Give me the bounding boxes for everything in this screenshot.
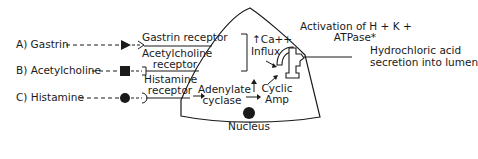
nucleus-dot — [243, 107, 255, 119]
cyclase-label: cyclase — [198, 95, 246, 106]
histamine-receptor-label-2: receptor — [144, 85, 196, 96]
output-label-1: Hydrochloric acid — [370, 45, 461, 56]
influx-label: Influx — [251, 46, 280, 57]
stimulus-histamine-label: C) Histamine — [16, 92, 84, 103]
acetylcholine-square-icon — [120, 66, 130, 76]
nucleus-label: Nucleus — [225, 121, 273, 132]
calcium-label: ↑Ca++ — [252, 34, 292, 45]
output-label-2: secretion into lumen — [370, 57, 478, 68]
histamine-circle-icon — [120, 93, 130, 103]
amp-label: Amp — [259, 94, 295, 105]
pump-label-2: ATPase* — [300, 32, 410, 43]
gastrin-receptor-label: Gastrin receptor — [142, 32, 228, 43]
acetylcholine-receptor-label-2: receptor — [142, 59, 208, 70]
stimulus-acetylcholine-label: B) Acetylcholine — [16, 65, 101, 76]
gastrin-triangle-icon — [121, 40, 131, 50]
stimulus-gastrin-label: A) Gastrin — [16, 39, 69, 50]
pump-faucet-icon — [277, 47, 304, 78]
